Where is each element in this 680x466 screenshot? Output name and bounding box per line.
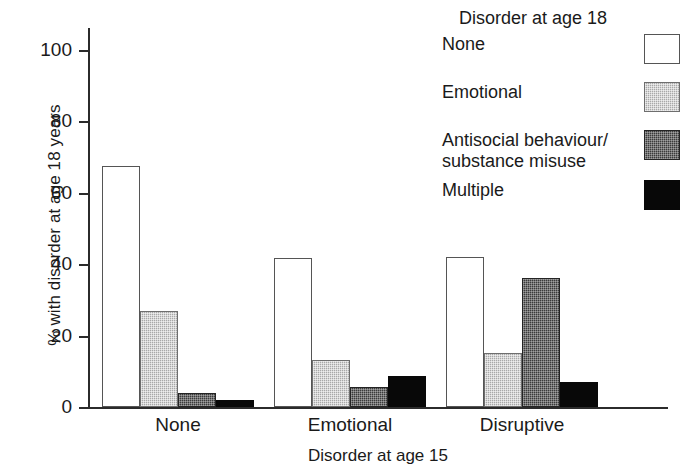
y-axis-tick-40: 40 [79,264,88,266]
y-axis-tick-80: 80 [79,121,88,123]
y-axis-line [88,28,90,409]
legend-title: Disorder at age 18 [404,8,662,29]
legend-item-label: Multiple [442,180,504,201]
bar-emotional-none [140,311,178,407]
y-axis-tick-100: 100 [79,50,88,52]
y-axis-tick-60: 60 [79,193,88,195]
bar-antisocial-none [178,393,216,407]
bar-multiple-emotional [388,376,426,407]
legend-item-emotional[interactable]: Emotional [404,82,676,116]
legend-item-label: Emotional [442,82,522,103]
bar-multiple-none [216,400,254,407]
legend-swatch-light-gray-stipple [644,82,680,112]
legend-item-none[interactable]: None [404,34,676,68]
bar-none-emotional [274,258,312,407]
bar-emotional-disruptive [484,353,522,407]
y-axis-tick-label: 60 [51,182,72,204]
bar-emotional-emotional [312,360,350,407]
legend-swatch-white-outline [644,34,680,64]
legend: Disorder at age 18 NoneEmotionalAntisoci… [404,4,676,209]
bar-multiple-disruptive [560,382,598,407]
bar-antisocial-disruptive [522,278,560,407]
legend-item-label: None [442,34,485,55]
legend-item-label-line2: substance misuse [442,151,608,172]
bar-antisocial-emotional [350,387,388,407]
y-axis-tick-0: 0 [79,407,88,409]
y-axis-tick-label: 100 [40,39,72,61]
legend-item-multiple[interactable]: Multiple [404,180,676,214]
y-axis-tick-label: 40 [51,253,72,275]
y-axis-tick-20: 20 [79,336,88,338]
legend-item-label: Antisocial behaviour/substance misuse [442,130,608,172]
legend-swatch-dark-gray-stipple [644,130,680,160]
x-axis-line [88,407,668,409]
y-axis-tick-label: 20 [51,325,72,347]
legend-swatch-solid-black [644,180,680,210]
bar-none-none [102,166,140,407]
x-axis-title: Disorder at age 15 [88,446,668,466]
legend-item-antisocial-behaviour[interactable]: Antisocial behaviour/substance misuse [404,130,676,164]
bar-none-disruptive [446,257,484,407]
y-axis-tick-label: 80 [51,110,72,132]
x-axis-tick-label-disruptive: Disruptive [406,414,638,436]
